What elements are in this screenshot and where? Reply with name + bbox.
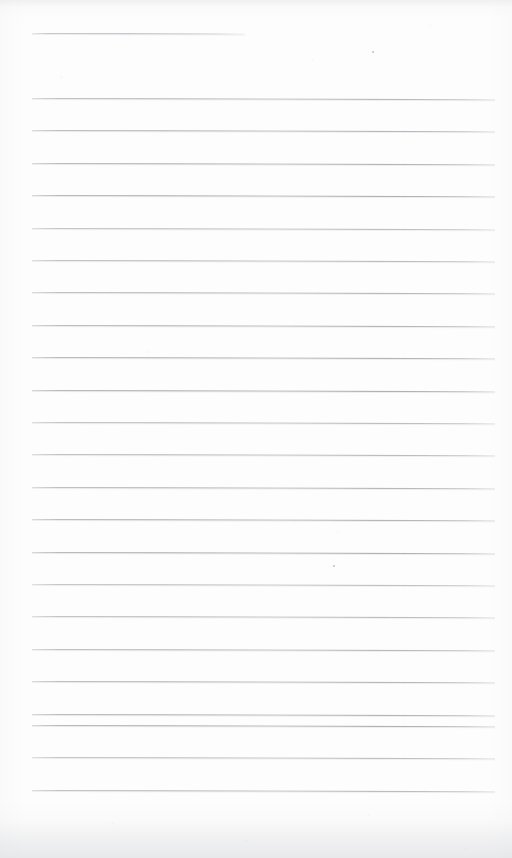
scan-speck-middle [333,565,335,567]
paper-grain-texture [0,0,512,858]
ruled-line [32,195,495,197]
ruled-line [32,98,495,100]
ruled-line [32,616,495,618]
ruled-line [32,260,495,262]
ruled-line [32,422,495,424]
ruled-line [32,390,495,392]
ruled-line [32,790,495,792]
ruled-line [32,487,495,489]
ruled-line [32,725,495,727]
ruled-line [32,130,495,132]
ruled-line [32,454,495,456]
ruled-line [32,292,495,294]
paper-surface [0,0,512,858]
header-rule [32,33,245,35]
ruled-line [32,714,495,716]
ruled-line [32,228,495,230]
ruled-line [32,649,495,651]
ruled-line [32,552,495,554]
ruled-line [32,357,495,359]
scanned-page [0,0,512,858]
ruled-line [32,584,495,586]
ruled-line [32,757,495,759]
ruled-line [32,325,495,327]
ruled-line [32,163,495,165]
ruled-line [32,681,495,683]
scan-speck-upper [372,51,374,53]
ruled-line [32,519,495,521]
